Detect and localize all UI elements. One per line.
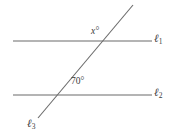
- line-label-l1-symbol: ℓ: [154, 32, 159, 44]
- line-label-l2: ℓ2: [154, 87, 163, 100]
- line-label-l1-subscript: 1: [159, 37, 163, 46]
- line-label-l2-subscript: 2: [159, 91, 163, 100]
- line-label-l3-subscript: 3: [32, 122, 36, 131]
- line-label-l2-symbol: ℓ: [154, 86, 159, 98]
- line-label-l1: ℓ1: [154, 33, 163, 46]
- geometry-figure: x° 70° ℓ1 ℓ2 ℓ3: [0, 0, 171, 138]
- line-label-l3: ℓ3: [27, 118, 36, 131]
- line-l3-transversal: [38, 5, 133, 118]
- geometry-canvas: [0, 0, 171, 138]
- angle-label-70: 70°: [71, 77, 84, 87]
- line-label-l3-symbol: ℓ: [27, 117, 32, 129]
- angle-label-x: x°: [91, 27, 99, 37]
